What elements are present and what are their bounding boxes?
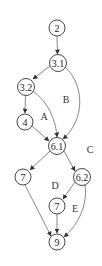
edge-6.1-to-7	[30, 151, 50, 170]
edge-6.1-to-6.2	[64, 151, 75, 171]
region-label-c: C	[87, 144, 94, 155]
node-3.1: 3.1	[50, 55, 67, 72]
edge-4-to-6.1	[32, 126, 49, 141]
edge-3.2-to-4	[25, 95, 26, 113]
edge-2-to-3.1	[57, 36, 58, 54]
node-2: 2	[49, 20, 65, 36]
region-label-d: D	[51, 180, 58, 191]
flow-graph-canvas: 2 3.1 3.2 4 6.1 7 6.2 7 9 A B C D E	[0, 0, 102, 266]
node-7-left: 7	[15, 169, 31, 185]
node-label: 7	[55, 201, 60, 212]
region-label-b: B	[63, 94, 70, 105]
node-label: 4	[23, 117, 28, 128]
node-label: 3.2	[20, 82, 33, 93]
node-6.1: 6.1	[49, 138, 66, 155]
node-4: 4	[17, 114, 33, 130]
edge-6.2-to-7	[63, 182, 75, 199]
node-6.2: 6.2	[74, 169, 91, 186]
edge-7-left-to-9	[25, 185, 51, 236]
node-7-middle: 7	[49, 198, 65, 214]
node-label: 2	[55, 23, 60, 34]
region-label-a: A	[40, 111, 48, 122]
node-label: 9	[55, 237, 60, 248]
node-label: 6.1	[51, 141, 64, 152]
node-label: 7	[21, 172, 26, 183]
region-label-e: E	[72, 203, 78, 214]
node-9: 9	[49, 234, 65, 250]
edge-3.1-to-3.2	[33, 66, 50, 79]
node-label: 6.2	[76, 172, 89, 183]
node-3.2: 3.2	[18, 79, 35, 96]
node-label: 3.1	[52, 58, 65, 69]
